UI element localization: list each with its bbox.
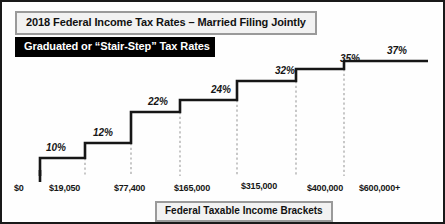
rate-label-32: 32%	[275, 65, 295, 76]
x-label-315000: $315,000	[241, 181, 277, 191]
rate-label-37: 37%	[387, 45, 407, 56]
rate-label-24: 24%	[211, 84, 231, 95]
rate-label-35: 35%	[340, 53, 360, 64]
x-label-77400: $77,400	[114, 183, 145, 193]
rate-label-22: 22%	[148, 96, 168, 107]
rate-label-12: 12%	[93, 127, 113, 138]
x-label-400000: $400,000	[307, 183, 343, 193]
subtitle-banner: Graduated or “Stair-Step” Tax Rates	[15, 37, 215, 57]
x-label-165000: $165,000	[174, 183, 210, 193]
step-line	[40, 61, 428, 176]
rate-label-10: 10%	[46, 142, 66, 153]
x-label-600000: $600,000+	[359, 183, 400, 193]
x-label-19050: $19,050	[49, 183, 80, 193]
chart-inner: 2018 Federal Income Tax Rates – Married …	[4, 4, 441, 220]
x-label-0: $0	[14, 183, 24, 193]
chart-frame: 2018 Federal Income Tax Rates – Married …	[0, 0, 445, 224]
page-title: 2018 Federal Income Tax Rates – Married …	[15, 11, 317, 35]
x-axis-caption: Federal Taxable Income Brackets	[155, 201, 333, 222]
